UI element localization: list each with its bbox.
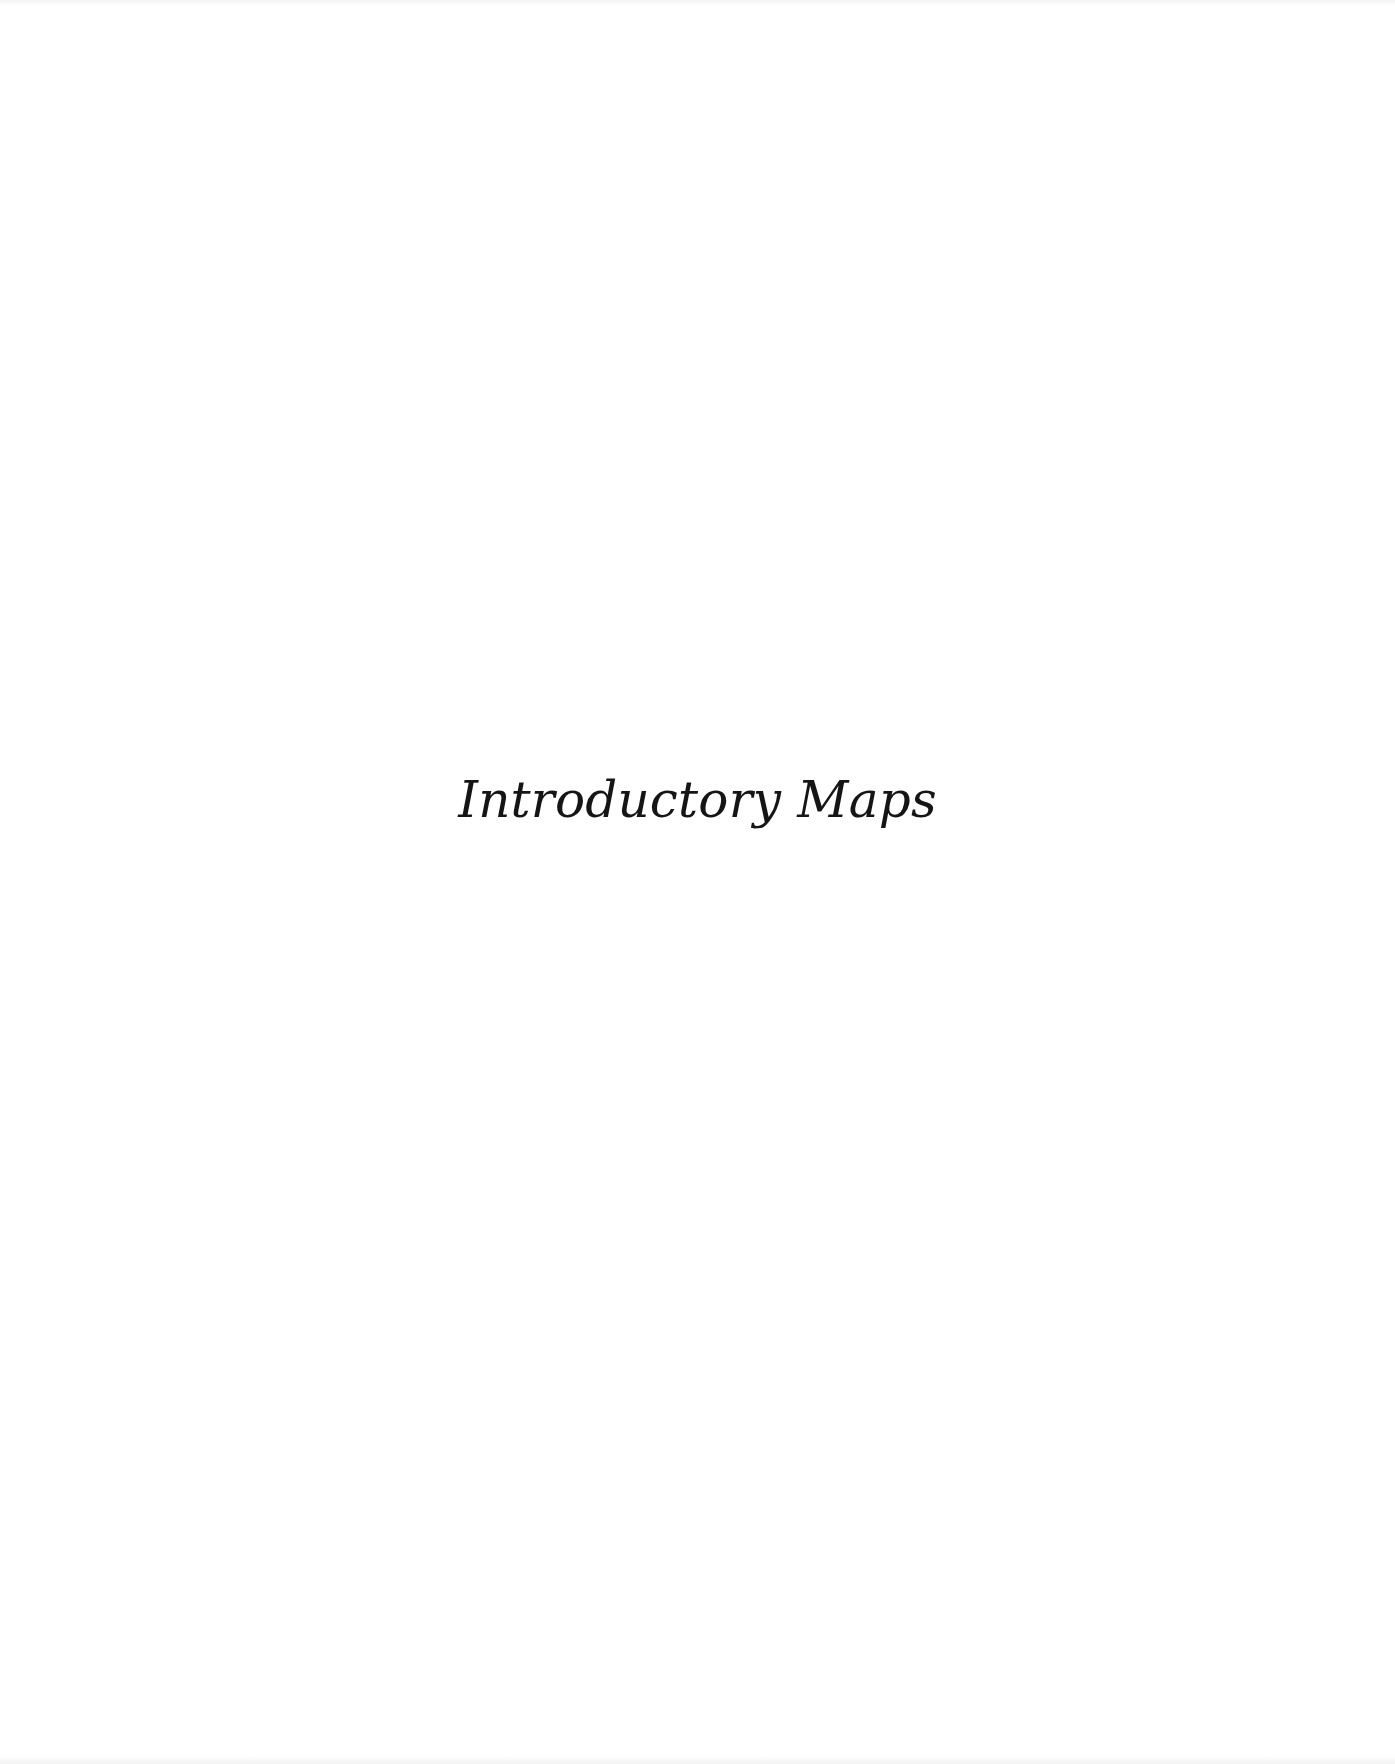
- document-page: Introductory Maps: [0, 0, 1395, 1764]
- section-title: Introductory Maps: [0, 770, 1395, 830]
- scan-edge-bottom: [0, 1756, 1395, 1764]
- scan-edge-top: [0, 0, 1395, 6]
